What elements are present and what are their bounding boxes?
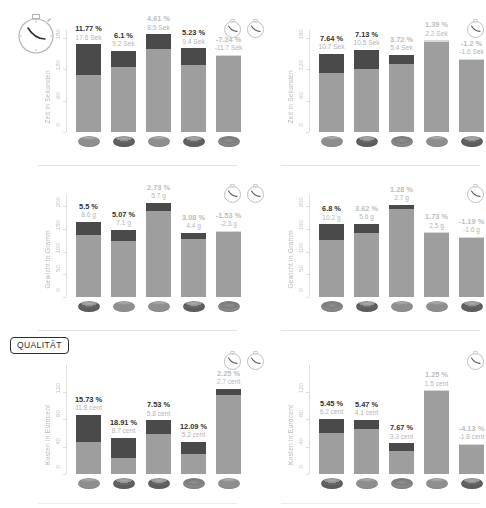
panel-kosten-rechts: Kosten in Eurocent040801205.45 %6.2 cent… (243, 330, 486, 508)
bar-column[interactable] (389, 443, 414, 474)
bar-column[interactable] (389, 55, 414, 132)
bar-column[interactable] (319, 419, 344, 474)
panel-kosten-links: Kosten in Eurocent0408012015.73 %11.8 ce… (0, 330, 243, 508)
bar-column[interactable] (76, 44, 101, 132)
bar-value-label: -1.2 %-1.6 Sek (441, 39, 486, 57)
y-tick-mark (63, 132, 66, 133)
bar-column[interactable] (319, 224, 344, 297)
bar-absolute-label: 5.8 cent (128, 410, 190, 418)
bar-column[interactable] (181, 48, 206, 132)
burger-thumbnail (356, 301, 378, 312)
bar-column[interactable] (319, 54, 344, 132)
bar-column[interactable] (354, 224, 379, 297)
y-tick-mark (306, 69, 309, 70)
bar-column[interactable] (216, 389, 241, 474)
burger-image (321, 478, 343, 489)
burger-image (391, 301, 413, 312)
bar[interactable] (181, 233, 206, 297)
y-tick-mark (306, 101, 309, 102)
bar-column[interactable] (76, 222, 101, 297)
y-tick-mark (63, 447, 66, 448)
bar[interactable] (424, 232, 449, 297)
burger-thumbnail (148, 478, 170, 489)
burger-image (78, 301, 100, 312)
burger-thumbnail (218, 301, 240, 312)
y-tick-mark (63, 229, 66, 230)
burger-image (183, 478, 205, 489)
y-axis-title: Kosten in Eurocent (44, 377, 51, 465)
burger-thumbnail (321, 478, 343, 489)
stopwatch-icon (245, 350, 266, 371)
bar-percent-label: 15.73 % (58, 395, 120, 404)
bar-percent-label: 4.61 % (128, 14, 190, 23)
stopwatch-icon (245, 18, 266, 39)
bar[interactable] (76, 44, 101, 132)
burger-image (78, 478, 100, 489)
bar[interactable] (389, 55, 414, 132)
bar[interactable] (319, 54, 344, 132)
y-tick-mark (63, 101, 66, 102)
bar[interactable] (319, 224, 344, 297)
bar-column[interactable] (181, 442, 206, 474)
bar-cap-segment (319, 224, 344, 240)
y-tick-mark (306, 447, 309, 448)
bar[interactable] (111, 51, 136, 132)
burger-image (391, 136, 413, 147)
panel-qualitaet-links: QUALITÄT Gewicht in Gramm0501001502005.5… (0, 165, 243, 330)
bar-column[interactable] (111, 230, 136, 297)
bar-column[interactable] (216, 231, 241, 297)
bar[interactable] (389, 443, 414, 474)
bar-value-label: 1.25 %1.5 cent (406, 370, 468, 388)
burger-thumbnail (391, 478, 413, 489)
burger-image (461, 478, 483, 489)
y-tick-mark (306, 474, 309, 475)
bar-cap-segment (111, 230, 136, 241)
burger-thumbnail (321, 136, 343, 147)
bar[interactable] (354, 50, 379, 132)
bar-absolute-label: 2.2 Sek (406, 30, 468, 38)
bar[interactable] (146, 34, 171, 132)
bar[interactable] (354, 224, 379, 297)
bar-column[interactable] (459, 237, 484, 297)
bar[interactable] (459, 59, 484, 132)
bar[interactable] (216, 231, 241, 297)
y-axis-line (66, 364, 67, 474)
burger-image (321, 301, 343, 312)
bar[interactable] (181, 442, 206, 474)
bar[interactable] (459, 444, 484, 474)
burger-image (461, 301, 483, 312)
burger-image (356, 301, 378, 312)
burger-thumbnail (113, 301, 135, 312)
chart-zeit-rechts: Zeit in Sekunden0601201807.64 %10.7 Sek7… (287, 0, 480, 165)
burger-thumbnail (78, 136, 100, 147)
bar-column[interactable] (181, 233, 206, 297)
stopwatch-icon (222, 183, 243, 204)
bar-column[interactable] (459, 59, 484, 132)
chart-kosten-links: Kosten in Eurocent0408012015.73 %11.8 ce… (44, 330, 237, 508)
bar-column[interactable] (111, 51, 136, 132)
bar-cap-segment (111, 51, 136, 67)
burger-image (426, 301, 448, 312)
bar[interactable] (459, 237, 484, 297)
bar-column[interactable] (459, 444, 484, 474)
burger-image (391, 478, 413, 489)
bar-cap-line (424, 390, 449, 391)
bar-column[interactable] (424, 232, 449, 297)
bar-column[interactable] (216, 55, 241, 132)
bar[interactable] (181, 48, 206, 132)
bar-column[interactable] (354, 50, 379, 132)
bar[interactable] (111, 230, 136, 297)
bar[interactable] (76, 222, 101, 297)
bar[interactable] (216, 55, 241, 132)
bar[interactable] (111, 438, 136, 474)
bar-cap-segment (389, 443, 414, 451)
y-tick-mark (63, 297, 66, 298)
burger-thumbnail (461, 478, 483, 489)
burger-thumbnail (183, 136, 205, 147)
bar-column[interactable] (111, 438, 136, 474)
bar[interactable] (216, 389, 241, 474)
burger-thumbnail (426, 301, 448, 312)
bar-column[interactable] (146, 34, 171, 132)
bar[interactable] (319, 419, 344, 474)
panel-zeit-links: Zeit in Sekunden06012018011.77 %17.6 Sek… (0, 0, 243, 165)
